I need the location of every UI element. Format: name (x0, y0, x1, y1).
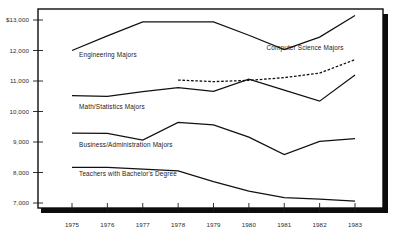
chart-container: 7,0008,0009,00010,00011,00012,000$13,000… (0, 0, 398, 241)
series-annotation: Engineering Majors (79, 51, 137, 59)
chart-background (0, 0, 398, 241)
x-tick-label: 1977 (136, 221, 151, 228)
series-annotation: Teachers with Bachelor's Degree (79, 170, 177, 178)
x-tick-label: 1980 (242, 221, 257, 228)
x-axis-labels: 197519761977197819791980198119821983 (65, 221, 363, 228)
x-tick-label: 1982 (313, 221, 328, 228)
series-annotation: Business/Administration Majors (79, 141, 173, 149)
x-tick-label: 1978 (171, 221, 186, 228)
x-tick-label: 1976 (100, 221, 115, 228)
y-tick-label: 8,000 (13, 169, 29, 176)
y-tick-label: 12,000 (9, 47, 29, 54)
x-tick-label: 1981 (277, 221, 292, 228)
y-tick-label: 10,000 (9, 108, 29, 115)
series-annotation: Computer Science Majors (267, 44, 344, 52)
y-tick-label: $13,000 (6, 16, 30, 23)
y-tick-label: 9,000 (13, 138, 29, 145)
x-tick-label: 1979 (206, 221, 221, 228)
y-tick-label: 7,000 (13, 199, 29, 206)
y-tick-label: 11,000 (10, 77, 30, 84)
x-tick-label: 1983 (348, 221, 363, 228)
series-annotation: Math/Statistics Majors (79, 103, 145, 111)
salary-trend-line-chart: 7,0008,0009,00010,00011,00012,000$13,000… (0, 0, 398, 241)
x-tick-label: 1975 (65, 221, 80, 228)
